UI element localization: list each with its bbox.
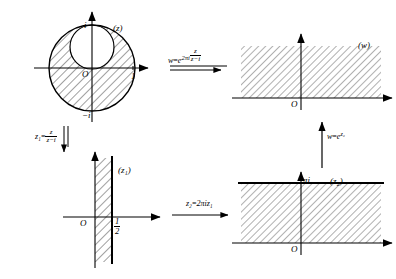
map-z-to-w-exp-coefficient: 2πi (181, 54, 189, 61)
z1-plane-tag: (z₁) (118, 166, 131, 175)
z-plane-tag: (z) (113, 24, 123, 33)
z1-plane-origin-label: O (80, 219, 87, 228)
w-plane-shaded-region (241, 46, 381, 98)
z2-plane-tick-pi-i-label: πi (303, 176, 310, 185)
z1-half-numerator: 1 (114, 217, 120, 226)
map-label-z2-to-w: w=ez₂ (327, 131, 345, 141)
figure-canvas: (z) i −i 1 O (w) O (z₁) O 1 2 (z₂) πi O … (0, 0, 396, 279)
z1-half-denominator: 2 (114, 226, 120, 236)
z1-plane-group (63, 152, 160, 268)
map-z1-to-z2-rhs: 2πiz₁ (196, 199, 212, 208)
map-z-to-z1-denominator: z−i (45, 136, 56, 144)
z-plane-tick-minus-i-label: −i (82, 111, 91, 120)
z-plane-tick-one-label: 1 (131, 72, 136, 81)
z-plane-origin-label: O (82, 70, 89, 79)
z-plane-tick-i-label: i (84, 21, 87, 30)
map-z2-to-w-exponent: z₂ (340, 131, 344, 137)
arrow-z-to-z1 (64, 126, 68, 152)
z2-plane-tag: (z₂) (330, 177, 343, 186)
map-label-z-to-z1: z₁= z z−i (35, 129, 57, 144)
z1-plane-tick-half-label: 1 2 (114, 217, 120, 236)
map-z-to-w-exp-denominator: z−i (190, 55, 201, 63)
map-z-to-w-exp-numerator: z (190, 48, 201, 55)
z2-plane-shaded-region (241, 183, 381, 243)
z2-plane-origin-label: O (291, 245, 298, 254)
z1-plane-shaded-region (95, 158, 112, 262)
arrow-z-to-w (170, 66, 227, 70)
map-label-z-to-w: w=e2πi z z−i (168, 48, 201, 65)
z-plane-group (34, 12, 148, 122)
map-label-z1-to-z2: z₂=2πiz₁ (186, 200, 213, 208)
w-plane-tag: (w) (358, 41, 370, 50)
map-z-to-z1-numerator: z (45, 129, 56, 136)
z2-plane-group (232, 172, 392, 255)
w-plane-origin-label: O (291, 100, 298, 109)
